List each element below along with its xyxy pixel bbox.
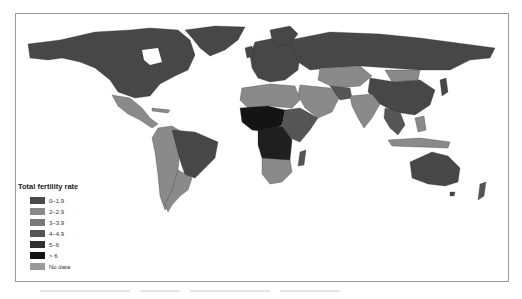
- region-india: [350, 94, 380, 128]
- legend-item: No data: [30, 261, 78, 272]
- world-map: [0, 0, 522, 299]
- legend-item: > 6: [30, 250, 78, 261]
- legend-swatch: [30, 241, 45, 248]
- faded-caption: [40, 288, 480, 294]
- region-southern-africa: [262, 158, 292, 184]
- legend-item: 4–4.9: [30, 228, 78, 239]
- legend-swatch: [30, 208, 45, 215]
- region-indonesia: [388, 138, 450, 148]
- region-north-africa: [240, 84, 300, 108]
- region-mexico: [112, 95, 158, 128]
- legend-item: 0–1.9: [30, 195, 78, 206]
- region-north-america: [28, 28, 195, 98]
- legend-label: No data: [49, 264, 70, 270]
- region-madagascar: [298, 150, 306, 166]
- legend-swatch: [30, 263, 45, 270]
- legend-label: 3–3.9: [49, 220, 64, 226]
- legend-item: 3–3.9: [30, 217, 78, 228]
- legend-item: 2–2.9: [30, 206, 78, 217]
- legend-swatch: [30, 197, 45, 204]
- map-legend: Total fertility rate 0–1.9 2–2.9 3–3.9 4…: [18, 182, 78, 272]
- legend-item: 5–6: [30, 239, 78, 250]
- legend-label: 5–6: [49, 242, 59, 248]
- legend-label: 2–2.9: [49, 209, 64, 215]
- region-central-asia: [318, 66, 372, 88]
- region-china: [368, 78, 435, 115]
- legend-title: Total fertility rate: [18, 182, 78, 191]
- legend-label: 4–4.9: [49, 231, 64, 237]
- region-mongolia: [385, 70, 420, 82]
- legend-swatch: [30, 230, 45, 237]
- region-russia: [290, 32, 495, 70]
- legend-label: > 6: [49, 253, 58, 259]
- legend-label: 0–1.9: [49, 198, 64, 204]
- legend-swatch: [30, 252, 45, 259]
- region-new-zealand: [478, 182, 486, 200]
- region-australia: [410, 152, 460, 186]
- region-greenland: [185, 26, 245, 56]
- legend-swatch: [30, 219, 45, 226]
